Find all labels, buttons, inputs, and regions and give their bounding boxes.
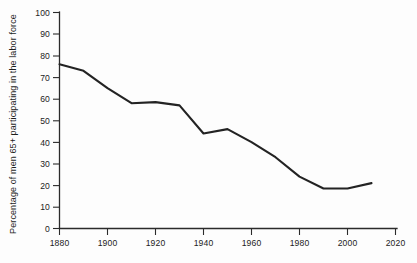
x-tick-label: 1920 — [146, 238, 166, 248]
y-tick-label: 30 — [40, 159, 50, 169]
y-tick-label: 70 — [40, 73, 50, 83]
y-tick-label: 80 — [40, 51, 50, 61]
y-tick-label: 90 — [40, 29, 50, 39]
y-tick-label: 100 — [35, 8, 50, 18]
y-tick-label: 10 — [40, 202, 50, 212]
x-tick-label: 1900 — [98, 238, 118, 248]
x-tick-marks — [60, 229, 396, 236]
x-tick-label: 1880 — [50, 238, 70, 248]
x-tick-label: 2000 — [338, 238, 358, 248]
y-tick-labels: 100 90 80 70 60 50 40 30 20 10 0 — [35, 8, 50, 234]
y-tick-label: 0 — [45, 224, 50, 234]
x-tick-label: 1980 — [290, 238, 310, 248]
y-tick-label: 20 — [40, 181, 50, 191]
y-tick-label: 50 — [40, 116, 50, 126]
x-tick-label: 1960 — [242, 238, 262, 248]
x-tick-labels: 1880 1900 1920 1940 1960 1980 2000 2020 — [50, 238, 406, 248]
y-tick-label: 40 — [40, 138, 50, 148]
x-tick-label: 1940 — [194, 238, 214, 248]
line-chart: Percentage of men 65+ participating in t… — [0, 0, 417, 263]
chart-container: Percentage of men 65+ participating in t… — [0, 0, 417, 263]
y-tick-marks — [53, 13, 60, 229]
data-series-line — [60, 64, 372, 188]
y-tick-label: 60 — [40, 94, 50, 104]
x-tick-label: 2020 — [386, 238, 406, 248]
y-axis-title: Percentage of men 65+ participating in t… — [8, 14, 18, 234]
